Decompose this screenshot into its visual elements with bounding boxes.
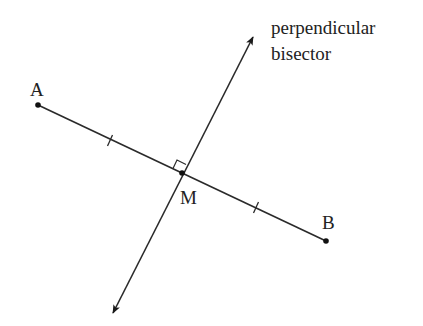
label-m: M [180,187,197,208]
point-a [35,102,41,108]
label-b: B [322,212,335,233]
label-a: A [30,79,44,100]
point-m [179,170,185,176]
bisector-label-line2: bisector [271,43,332,64]
perpendicular-bisector-diagram: A M B perpendicular bisector [0,0,423,326]
bisector-label-line1: perpendicular [271,17,376,38]
right-angle-marker [173,160,186,169]
point-b [323,238,329,244]
